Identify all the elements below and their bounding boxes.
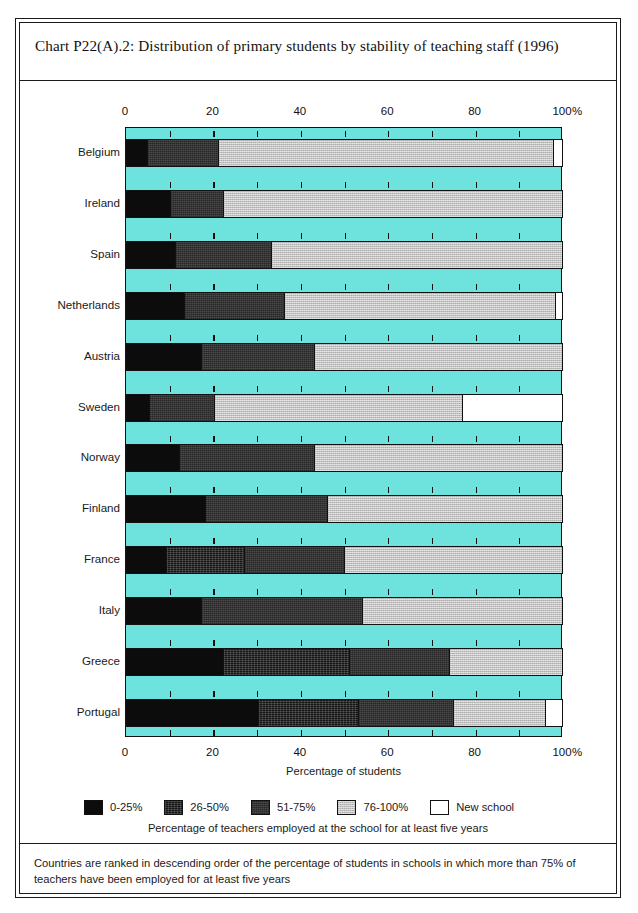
bar-segment-76-100 [314, 445, 562, 471]
bar-france [126, 546, 563, 574]
bar-segment-newschool [555, 293, 562, 319]
major-gridline-tick [213, 730, 214, 736]
bar-segment-51-75 [175, 242, 271, 268]
minor-gridline-tick [257, 691, 258, 697]
minor-gridline-tick [170, 182, 171, 188]
bar-segment-51-75 [170, 191, 222, 217]
bar-segment-0-25 [127, 242, 175, 268]
major-gridline-tick [476, 487, 477, 493]
major-gridline-tick [213, 589, 214, 595]
minor-gridline-tick [170, 131, 171, 137]
category-label-ireland: Ireland [10, 196, 120, 209]
major-gridline-tick [301, 730, 302, 736]
major-gridline-tick [213, 233, 214, 239]
minor-gridline-tick [257, 730, 258, 736]
minor-gridline-tick [257, 386, 258, 392]
axis-tick-label: 60 [381, 746, 394, 758]
major-gridline-tick [213, 182, 214, 188]
bar-segment-76-100 [362, 598, 562, 624]
bar-segment-26-50 [223, 649, 349, 675]
bar-segment-0-25 [127, 344, 201, 370]
minor-gridline-tick [170, 538, 171, 544]
major-gridline-tick [301, 436, 302, 442]
bar-austria [126, 343, 563, 371]
bar-segment-0-25 [127, 191, 170, 217]
major-gridline-tick [301, 182, 302, 188]
minor-gridline-tick [432, 436, 433, 442]
minor-gridline-tick [170, 233, 171, 239]
category-label-norway: Norway [10, 450, 120, 463]
minor-gridline-tick [432, 182, 433, 188]
minor-gridline-tick [345, 284, 346, 290]
bar-segment-76-100 [314, 344, 562, 370]
major-gridline-tick [388, 640, 389, 646]
legend-label: New school [456, 801, 514, 813]
category-label-finland: Finland [10, 501, 120, 514]
bar-segment-newschool [545, 700, 562, 726]
axis-percent-symbol: % [572, 105, 582, 117]
bar-spain [126, 241, 563, 269]
category-label-italy: Italy [10, 603, 120, 616]
major-gridline-tick [213, 335, 214, 341]
minor-gridline-tick [345, 538, 346, 544]
major-gridline-tick [388, 691, 389, 697]
category-label-france: France [10, 552, 120, 565]
page-title: Chart P22(A).2: Distribution of primary … [35, 37, 559, 55]
bar-segment-76-100 [453, 700, 544, 726]
bar-segment-51-75 [349, 649, 449, 675]
minor-gridline-tick [432, 589, 433, 595]
bottom-axis-labels: 020406080100% [0, 746, 638, 762]
major-gridline-tick [476, 335, 477, 341]
bar-segment-0-25 [127, 598, 201, 624]
major-gridline-tick [476, 233, 477, 239]
major-gridline-tick [476, 182, 477, 188]
minor-gridline-tick [257, 284, 258, 290]
legend-label: 26-50% [190, 801, 229, 813]
bar-segment-76-100 [218, 140, 553, 166]
minor-gridline-tick [170, 640, 171, 646]
major-gridline-tick [388, 284, 389, 290]
minor-gridline-tick [170, 589, 171, 595]
x-axis-title: Percentage of students [125, 765, 562, 777]
bar-segment-0-25 [127, 547, 166, 573]
minor-gridline-tick [519, 691, 520, 697]
bar-segment-51-75 [179, 445, 314, 471]
minor-gridline-tick [170, 284, 171, 290]
major-gridline-tick [213, 131, 214, 137]
minor-gridline-tick [257, 640, 258, 646]
bar-segment-76-100 [344, 547, 562, 573]
bar-italy [126, 597, 563, 625]
major-gridline-tick [301, 691, 302, 697]
axis-percent-symbol: % [572, 746, 582, 758]
minor-gridline-tick [519, 335, 520, 341]
plot-area [125, 127, 562, 737]
minor-gridline-tick [257, 335, 258, 341]
minor-gridline-tick [432, 284, 433, 290]
bar-greece [126, 648, 563, 676]
axis-tick-label: 20 [206, 746, 219, 758]
minor-gridline-tick [345, 730, 346, 736]
major-gridline-tick [301, 233, 302, 239]
bar-segment-51-75 [201, 344, 314, 370]
legend-item-76-100: 76-100% [337, 800, 430, 815]
bar-segment-0-25 [127, 140, 147, 166]
minor-gridline-tick [345, 233, 346, 239]
bar-segment-51-75 [358, 700, 454, 726]
title-block: Chart P22(A).2: Distribution of primary … [20, 23, 616, 81]
very-dark-gray-swatch [164, 800, 183, 815]
bar-segment-76-100 [284, 293, 556, 319]
minor-gridline-tick [257, 131, 258, 137]
category-label-spain: Spain [10, 247, 120, 260]
bar-segment-0-25 [127, 445, 179, 471]
minor-gridline-tick [345, 182, 346, 188]
major-gridline-tick [301, 131, 302, 137]
minor-gridline-tick [345, 131, 346, 137]
minor-gridline-tick [519, 538, 520, 544]
minor-gridline-tick [345, 691, 346, 697]
axis-tick-label: 0 [122, 746, 128, 758]
minor-gridline-tick [257, 436, 258, 442]
light-gray-swatch [337, 800, 356, 815]
major-gridline-tick [213, 691, 214, 697]
major-gridline-tick [388, 730, 389, 736]
minor-gridline-tick [170, 436, 171, 442]
